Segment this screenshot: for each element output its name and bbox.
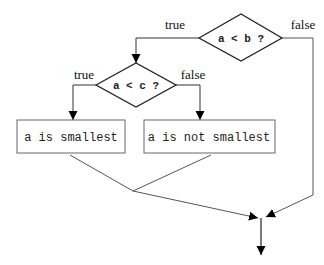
box-a-is-not-smallest-label: a is not smallest [148,131,270,145]
decision-a-lt-b-false-label: false [291,17,316,32]
box-a-is-smallest-label: a is smallest [24,131,118,145]
decision-a-lt-b-true-label: true [165,17,185,32]
edge-d1-true [136,38,199,63]
decision-a-lt-c-false-label: false [181,67,206,82]
edge-d2-false [176,85,200,120]
edge-merge-to-end [133,191,258,218]
decision-a-lt-b-label: a < b ? [218,33,264,45]
edge-box2-merge [133,155,211,191]
decision-a-lt-c-true-label: true [74,67,94,82]
edge-box1-merge [70,155,133,191]
decision-a-lt-c-label: a < c ? [113,80,159,92]
edge-d2-true [73,85,96,120]
flowchart: a < b ? true false a < c ? true false a … [0,0,324,265]
